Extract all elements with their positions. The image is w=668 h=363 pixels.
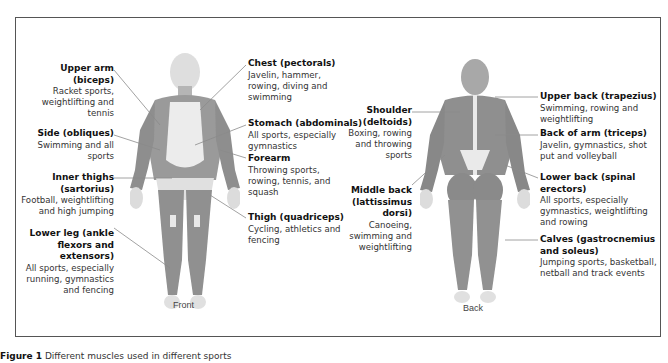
label-title: Stomach (abdominals) — [248, 118, 363, 130]
label-inner-thighs: Inner thighs (sartorius) Football, weigh… — [18, 172, 114, 217]
label-title: Middle back (lattissimus dorsi) — [340, 185, 412, 220]
label-title: Side (obliques) — [28, 128, 114, 140]
label-title: Shoulder (deltoids) — [348, 105, 412, 128]
label-upper-back: Upper back (trapezius) Swimming, rowing … — [540, 91, 660, 125]
label-lower-back: Lower back (spinal erectors) All sports,… — [540, 172, 660, 228]
figure-caption: Figure 1 Different muscles used in diffe… — [0, 351, 231, 361]
label-middle-back: Middle back (lattissimus dorsi) Canoeing… — [340, 185, 412, 253]
label-desc: All sports, especially running, gymnasti… — [18, 263, 114, 296]
label-upper-arm: Upper arm (biceps) Racket sports, weight… — [18, 63, 114, 119]
label-desc: Javelin, gymnastics, shot put and volley… — [540, 140, 655, 162]
label-title: Chest (pectorals) — [248, 58, 348, 70]
label-calves: Calves (gastrocnemius and soleus) Jumpin… — [540, 234, 662, 279]
label-title: Lower leg (ankle flexors and extensors) — [18, 228, 114, 263]
label-desc: Swimming and all sports — [28, 140, 114, 162]
label-title: Back of arm (triceps) — [540, 128, 655, 140]
label-lower-leg: Lower leg (ankle flexors and extensors) … — [18, 228, 114, 296]
caption-text: Different muscles used in different spor… — [45, 351, 231, 361]
label-desc: Boxing, rowing and throwing sports — [348, 128, 412, 161]
label-forearm: Forearm Throwing sports, rowing, tennis,… — [248, 153, 348, 198]
label-desc: Throwing sports, rowing, tennis, and squ… — [248, 165, 348, 198]
label-desc: Racket sports, weightlifting and tennis — [18, 86, 114, 119]
caption-label: Figure 1 — [0, 351, 42, 361]
label-side: Side (obliques) Swimming and all sports — [28, 128, 114, 162]
label-desc: All sports, especially gymnastics, weigh… — [540, 195, 660, 228]
label-title: Upper back (trapezius) — [540, 91, 660, 103]
label-title: Calves (gastrocnemius and soleus) — [540, 234, 662, 257]
label-desc: Jumping sports, basketball, netball and … — [540, 257, 662, 279]
label-desc: All sports, especially gymnastics — [248, 130, 363, 152]
label-desc: Javelin, hammer, rowing, diving and swim… — [248, 70, 348, 103]
label-desc: Football, weightlifting and high jumping — [18, 195, 114, 217]
label-desc: Swimming, rowing and weightlifting — [540, 103, 660, 125]
label-shoulder: Shoulder (deltoids) Boxing, rowing and t… — [348, 105, 412, 161]
label-title: Forearm — [248, 153, 348, 165]
view-label-back: Back — [463, 303, 483, 313]
label-stomach: Stomach (abdominals) All sports, especia… — [248, 118, 363, 152]
label-title: Lower back (spinal erectors) — [540, 172, 660, 195]
label-title: Upper arm (biceps) — [18, 63, 114, 86]
view-label-front: Front — [173, 300, 194, 310]
label-desc: Canoeing, swimming and weightlifting — [340, 220, 412, 253]
label-chest: Chest (pectorals) Javelin, hammer, rowin… — [248, 58, 348, 103]
label-title: Inner thighs (sartorius) — [18, 172, 114, 195]
label-back-of-arm: Back of arm (triceps) Javelin, gymnastic… — [540, 128, 655, 162]
